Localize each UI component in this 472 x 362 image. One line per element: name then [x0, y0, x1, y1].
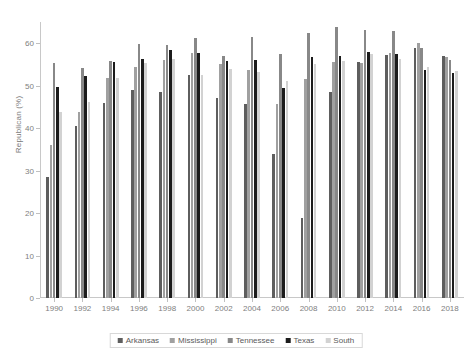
x-axis-tick-mark: [309, 298, 310, 302]
bar-arkansas-1998: [159, 92, 162, 298]
bar-texas-2016: [424, 70, 427, 298]
x-axis-tick-label: 2012: [356, 304, 374, 313]
x-axis-tick-mark: [82, 298, 83, 302]
bar-south-2008: [314, 64, 317, 298]
bar-arkansas-2002: [216, 98, 219, 298]
bar-south-2004: [257, 72, 260, 298]
bar-group: [323, 22, 351, 298]
bar-tennessee-2008: [307, 33, 310, 298]
bar-south-1996: [144, 63, 147, 298]
x-axis-tick-label: 1992: [73, 304, 91, 313]
x-axis-tick-label: 2014: [384, 304, 402, 313]
bar-texas-2006: [282, 88, 285, 298]
legend-item-tennessee[interactable]: Tennessee: [228, 336, 275, 345]
y-axis-tick-label: 30: [10, 166, 34, 175]
bar-arkansas-2008: [301, 218, 304, 298]
bar-mississippi-2012: [360, 63, 363, 298]
bar-tennessee-2012: [364, 30, 367, 298]
legend-item-south[interactable]: South: [325, 336, 354, 345]
bar-tennessee-2000: [194, 38, 197, 298]
bar-mississippi-1994: [106, 78, 109, 298]
bar-texas-2014: [395, 54, 398, 298]
x-axis-tick-mark: [393, 298, 394, 302]
y-axis-tick-label: 20: [10, 209, 34, 218]
bar-south-2016: [427, 67, 430, 298]
x-axis-tick-label: 2006: [271, 304, 289, 313]
bar-texas-2000: [197, 53, 200, 298]
x-axis-tick-mark: [337, 298, 338, 302]
bar-arkansas-1992: [75, 126, 78, 298]
bar-tennessee-2002: [222, 56, 225, 298]
bar-texas-1994: [113, 62, 116, 299]
legend-swatch-icon: [118, 338, 123, 343]
legend-item-arkansas[interactable]: Arkansas: [118, 336, 159, 345]
x-axis-tick-mark: [139, 298, 140, 302]
x-axis-tick-mark: [111, 298, 112, 302]
bar-texas-2018: [452, 73, 455, 298]
bar-arkansas-2014: [385, 55, 388, 298]
bar-south-2000: [201, 75, 204, 298]
bar-south-2012: [370, 54, 373, 298]
bar-group: [266, 22, 294, 298]
bar-tennessee-2006: [279, 54, 282, 298]
bar-south-1992: [88, 102, 91, 298]
legend-label: Texas: [293, 336, 314, 345]
bar-group: [294, 22, 322, 298]
bar-arkansas-2012: [357, 62, 360, 298]
bar-south-1990: [59, 112, 62, 298]
bar-texas-2002: [226, 61, 229, 298]
x-axis-tick-label: 2018: [441, 304, 459, 313]
bar-mississippi-1990: [50, 145, 53, 298]
bar-mississippi-2006: [276, 104, 279, 298]
y-axis-tick-label: 40: [10, 124, 34, 133]
bar-group: [153, 22, 181, 298]
x-axis-tick-mark: [224, 298, 225, 302]
bar-south-2010: [342, 61, 345, 298]
bar-tennessee-2014: [392, 31, 395, 299]
bar-texas-1998: [169, 50, 172, 298]
bar-arkansas-2010: [329, 92, 332, 298]
bar-groups: [40, 22, 464, 298]
x-axis: 1990199219941996199820002002200420062008…: [40, 298, 464, 320]
bar-arkansas-1994: [103, 103, 106, 298]
bar-group: [210, 22, 238, 298]
bar-mississippi-2018: [445, 57, 448, 298]
bar-mississippi-2000: [191, 53, 194, 298]
legend-swatch-icon: [228, 338, 233, 343]
x-axis-tick-mark: [167, 298, 168, 302]
x-axis-tick-label: 2002: [215, 304, 233, 313]
bar-arkansas-2016: [414, 48, 417, 298]
bar-texas-2008: [311, 57, 314, 298]
plot-area: 0102030405060: [40, 22, 464, 298]
bar-south-2002: [229, 69, 232, 298]
x-axis-tick-mark: [54, 298, 55, 302]
bar-group: [238, 22, 266, 298]
x-axis-tick-mark: [280, 298, 281, 302]
legend-label: Arkansas: [126, 336, 159, 345]
bar-south-1994: [116, 78, 119, 298]
bar-group: [351, 22, 379, 298]
bar-mississippi-1998: [163, 60, 166, 298]
x-axis-tick-mark: [365, 298, 366, 302]
legend-label: Mississippi: [178, 336, 217, 345]
bar-south-2006: [286, 81, 289, 298]
legend-item-texas[interactable]: Texas: [285, 336, 314, 345]
x-axis-tick-label: 1996: [130, 304, 148, 313]
x-axis-tick-mark: [422, 298, 423, 302]
y-axis-tick-label: 10: [10, 251, 34, 260]
bar-group: [407, 22, 435, 298]
bar-texas-2010: [339, 56, 342, 298]
y-axis-tick-label: 50: [10, 81, 34, 90]
x-axis-tick-mark: [450, 298, 451, 302]
y-axis-tick-label: 0: [10, 294, 34, 303]
bar-arkansas-2006: [272, 154, 275, 298]
bar-group: [97, 22, 125, 298]
y-axis-tick-label: 60: [10, 39, 34, 48]
x-axis-tick-mark: [252, 298, 253, 302]
bar-group: [125, 22, 153, 298]
x-axis-tick-label: 2008: [300, 304, 318, 313]
legend-swatch-icon: [170, 338, 175, 343]
legend-item-mississippi[interactable]: Mississippi: [170, 336, 217, 345]
bar-tennessee-1994: [109, 61, 112, 298]
chart-legend: ArkansasMississippiTennesseeTexasSouth: [110, 333, 363, 348]
